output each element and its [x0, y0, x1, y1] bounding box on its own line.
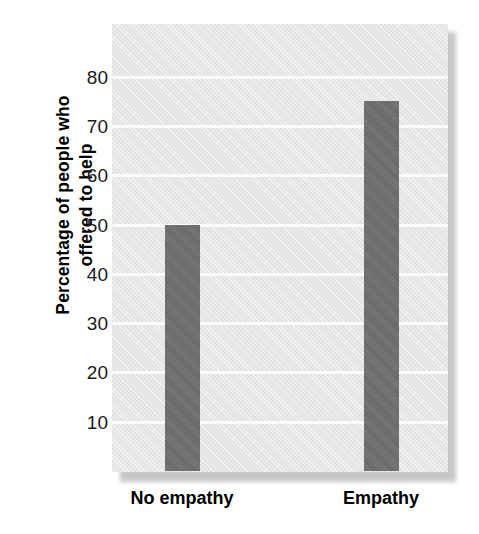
y-axis-tick-label: 60: [60, 166, 108, 185]
x-axis-tick-labels: No empathyEmpathy: [112, 488, 448, 522]
plot-area: [112, 24, 448, 472]
bar-empathy[interactable]: [364, 101, 399, 471]
y-axis-tick-label: 10: [60, 412, 108, 431]
y-axis-tick-label: 50: [60, 215, 108, 234]
gridline: [112, 76, 448, 79]
bar-no-empathy[interactable]: [165, 225, 200, 472]
y-axis-tick-labels: 1020304050607080: [60, 24, 108, 472]
x-axis-tick-label: Empathy: [343, 488, 419, 509]
y-axis-tick-label: 80: [60, 67, 108, 86]
y-axis-tick-label: 20: [60, 363, 108, 382]
bar-chart-figure: Percentage of people who offered to help…: [0, 0, 479, 534]
y-axis-tick-label: 70: [60, 116, 108, 135]
x-axis-tick-label: No empathy: [130, 488, 233, 509]
y-axis-tick-label: 40: [60, 264, 108, 283]
y-axis-tick-label: 30: [60, 314, 108, 333]
